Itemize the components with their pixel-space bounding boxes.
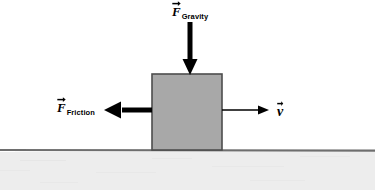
friction-symbol: F — [57, 101, 66, 114]
gravity-symbol: F — [172, 5, 181, 18]
gravity-symbol-text: F — [172, 4, 181, 19]
block — [152, 74, 222, 150]
velocity-symbol: v — [277, 105, 283, 119]
velocity-vector-arrow — [222, 106, 269, 115]
vector-arrow-accent-icon — [277, 100, 283, 106]
gravity-vector-label: F Gravity — [172, 3, 207, 19]
gravity-vector-arrow — [183, 22, 198, 75]
friction-vector-label: F Friction — [57, 99, 94, 115]
friction-vector-arrow — [104, 102, 152, 119]
physics-diagram-canvas: F Gravity F Friction v — [0, 0, 375, 190]
gravity-subscript: Gravity — [182, 13, 209, 21]
friction-subscript: Friction — [67, 109, 95, 117]
velocity-symbol-text: v — [277, 104, 283, 119]
vector-arrow-accent-icon — [57, 96, 66, 102]
diagram-svg — [0, 0, 375, 190]
friction-symbol-text: F — [57, 100, 66, 115]
vector-arrow-accent-icon — [172, 0, 181, 6]
ground-surface — [0, 152, 375, 190]
velocity-vector-label: v — [277, 103, 283, 119]
